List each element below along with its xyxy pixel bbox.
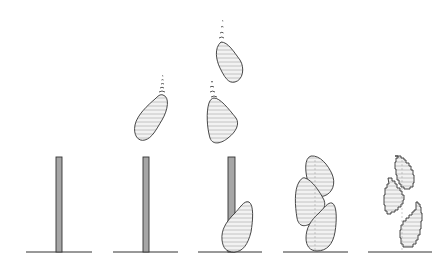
blob-voxel-top	[395, 156, 414, 189]
support-pole	[143, 157, 149, 252]
blob-falling	[135, 95, 168, 141]
blob-upper-falling	[216, 42, 242, 82]
panel-2	[113, 76, 178, 252]
panel-4	[283, 156, 348, 252]
diagram-stage	[0, 0, 446, 273]
panel-5	[368, 156, 432, 252]
blob-voxel-bottom	[400, 202, 422, 247]
motion-marks	[159, 76, 165, 92]
support-pole	[56, 157, 62, 252]
blob-base-placed	[222, 202, 253, 252]
blob-middle-falling	[207, 98, 237, 143]
panel-3	[198, 21, 262, 252]
panel-1	[26, 157, 92, 252]
